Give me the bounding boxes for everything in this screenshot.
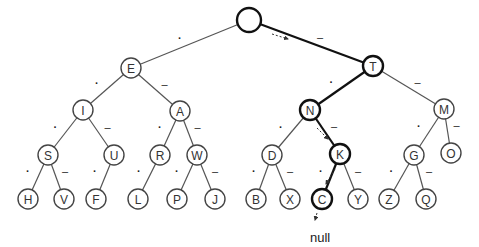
dot-symbol: · [95,77,99,89]
dash-symbol: – [317,31,324,43]
dash-symbol: – [212,165,219,177]
node-Q: Q [416,189,436,209]
dot-symbol: · [417,120,421,132]
dash-symbol: – [195,121,202,133]
dash-symbol: – [331,120,338,132]
edge-T-M [373,66,444,109]
dot-symbol: · [390,165,394,177]
dot-symbol: · [175,165,179,177]
node-A: A [170,101,190,121]
dot-symbol: · [137,165,141,177]
node-label: Z [385,193,392,207]
node-W: W [187,145,207,165]
node-label: F [92,193,99,207]
node-F: F [86,189,106,209]
node-label: W [191,149,203,163]
morse-tree-diagram: ·–·–·–·–·–·–·–·–···–·–·–·– ETIANMSURWDKG… [0,0,479,247]
dot-symbol: · [158,121,162,133]
node-I: I [73,100,93,120]
dot-symbol: · [54,121,58,133]
node-label: U [110,149,119,163]
dot-symbol: · [26,165,30,177]
dot-symbol: · [279,121,283,133]
node-J: J [205,189,225,209]
node-label: P [173,193,181,207]
node-label: L [135,193,142,207]
node-R: R [150,145,170,165]
node-S: S [38,145,58,165]
node-label: C [318,193,327,207]
dash-symbol: – [62,165,69,177]
dash-symbol: – [287,165,294,177]
dot-symbol: · [319,165,323,177]
node-label: H [24,193,33,207]
edge-T-N [310,66,373,110]
edge-root-E [131,20,249,68]
node-E: E [121,58,141,78]
node-label: N [306,104,315,118]
dash-symbol: – [355,165,362,177]
node-G: G [404,145,424,165]
edge-root-T [249,20,373,66]
traversal-arrow [315,213,317,220]
dot-symbol: · [330,76,334,88]
node-label: Y [354,193,362,207]
node-Y: Y [348,189,368,209]
node-P: P [167,189,187,209]
node-label: X [286,193,294,207]
node-D: D [262,145,282,165]
node-label: B [252,193,260,207]
node-M: M [434,99,454,119]
node-label: M [439,103,449,117]
node-Z: Z [379,189,399,209]
node-O: O [441,143,461,163]
dash-symbol: – [454,119,461,131]
node-X: X [280,189,300,209]
node-label: R [156,149,165,163]
node-root [237,8,261,32]
node-label: I [81,104,84,118]
node-label: T [369,60,377,74]
dot-symbol: · [178,32,182,44]
node-H: H [18,189,38,209]
dash-symbol: – [162,78,169,90]
node-label: O [446,147,455,161]
null-label: null [310,230,330,245]
dash-symbol: – [105,121,112,133]
dot-symbol: · [252,165,256,177]
dash-symbol: – [426,165,433,177]
node-label: Q [421,193,430,207]
node-L: L [128,189,148,209]
dot-symbol: · [93,165,97,177]
node-N: N [300,100,320,120]
node-label: S [44,149,52,163]
dash-symbol: – [415,76,422,88]
node-label: J [212,193,218,207]
node-label: V [60,193,68,207]
node-C: C [312,189,332,209]
node-label: E [127,62,135,76]
node-label: D [268,149,277,163]
node-label: A [176,105,184,119]
node-T: T [363,56,383,76]
node-B: B [246,189,266,209]
node-U: U [104,145,124,165]
node-V: V [54,189,74,209]
node-label: K [336,148,344,162]
tree-nodes: ETIANMSURWDKGOHVFLPJBXCYZQ [18,8,461,209]
node-label: G [409,149,418,163]
node-K: K [330,144,350,164]
